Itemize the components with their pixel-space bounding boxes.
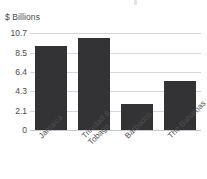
y-tick-label: 4.3 <box>1 87 27 96</box>
y-tick-label: 2.1 <box>1 107 27 116</box>
y-tick-label: 6.4 <box>1 68 27 77</box>
y-tick-label: 10.7 <box>1 29 27 38</box>
y-axis-tick-labels: 10.78.56.44.32.10 <box>0 33 27 130</box>
scan-artifact-mark <box>134 0 137 5</box>
y-axis-unit-label: $ Billions <box>5 12 40 22</box>
bar-chart: $ Billions 10.78.56.44.32.10 JamaicaTrin… <box>0 0 207 179</box>
y-tick-label: 8.5 <box>1 49 27 58</box>
x-axis-tick-labels: JamaicaTrinidad &TobagoBarbadosThe Baham… <box>0 130 207 179</box>
